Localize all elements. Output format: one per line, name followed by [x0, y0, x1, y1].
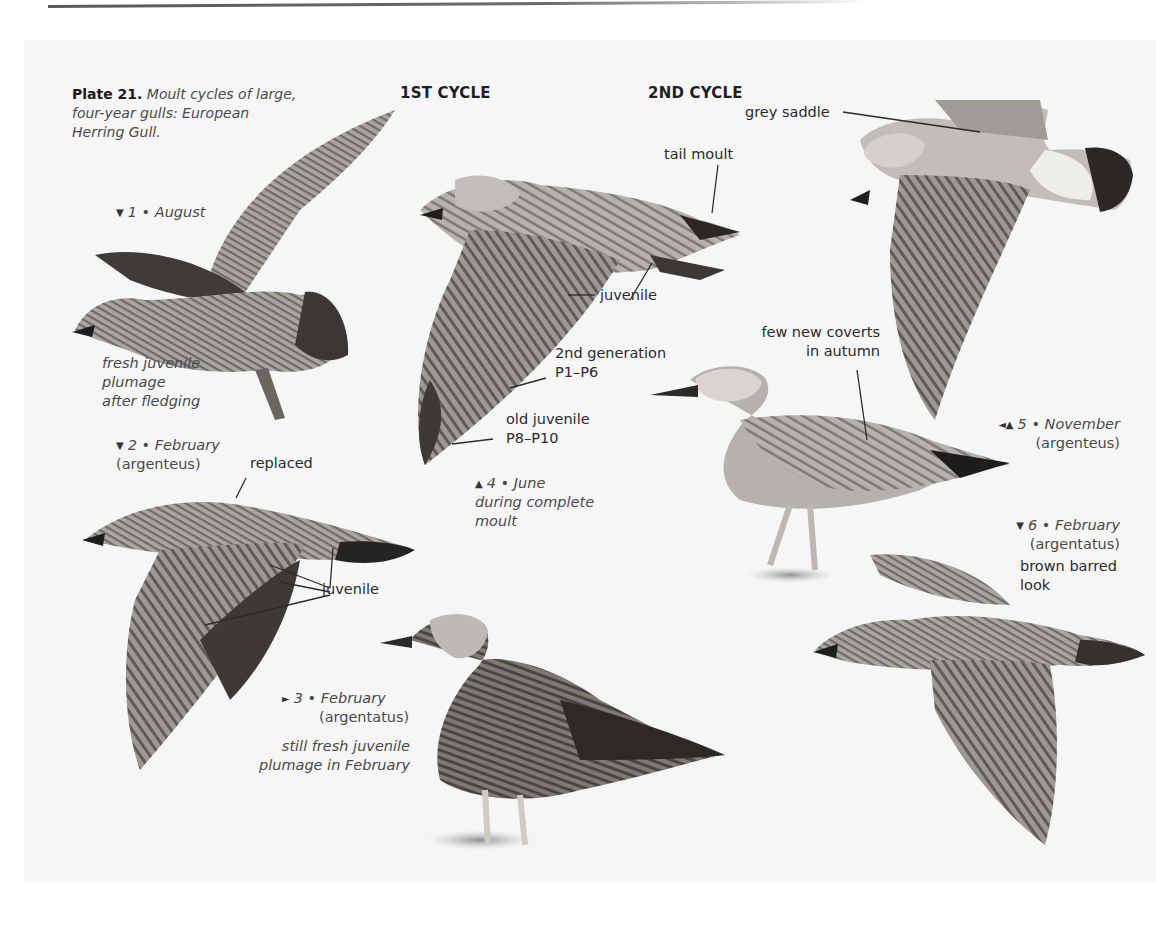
figure-2-form: (argenteus) — [116, 455, 201, 474]
gull-illustration-5 — [650, 366, 1010, 583]
callout-replaced: replaced — [250, 454, 313, 473]
figure-6-form: (argentatus) — [960, 535, 1120, 554]
triangle-right-icon: ► — [282, 693, 290, 704]
gull-illustration-2 — [82, 502, 415, 770]
callout-in-autumn: in autumn — [720, 342, 880, 361]
callout-tail-moult: tail moult — [664, 145, 733, 164]
figure-3-label: ►3 • February — [282, 689, 386, 708]
plate-caption-line-2: four-year gulls: European — [72, 104, 249, 123]
callout-few-new-coverts: few new coverts — [720, 323, 880, 342]
gull-illustration-2nd-cycle-top — [850, 100, 1133, 420]
triangle-down-icon: ▼ — [1016, 520, 1024, 531]
plate-caption: Plate 21. Moult cycles of large, — [72, 85, 296, 104]
column-heading-1st-cycle: 1ST CYCLE — [400, 84, 491, 103]
plate-caption-line-3: Herring Gull. — [72, 123, 161, 142]
figure-6-label: ▼6 • February — [960, 516, 1120, 535]
figure-1-note-line-3: after fledging — [102, 392, 200, 411]
gull-illustration-3 — [380, 614, 725, 850]
figure-4-label: ▲4 • June — [475, 474, 545, 493]
callout-grey-saddle: grey saddle — [745, 103, 830, 122]
callout-juvenile-fig2: juvenile — [322, 580, 379, 599]
gull-illustration-6 — [813, 554, 1145, 845]
figure-4-note-line-2: moult — [475, 512, 517, 531]
figure-5-form: (argenteus) — [950, 434, 1120, 453]
figure-4-note-line-1: during complete — [475, 493, 594, 512]
callout-2nd-generation: 2nd generation — [555, 344, 666, 363]
figure-1-label: ▼1 • August — [116, 203, 205, 222]
figure-6-note-line-2: look — [1020, 576, 1050, 595]
plate-caption-line-1: Moult cycles of large, — [147, 86, 296, 102]
figure-5-label: ◄▲5 • November — [950, 415, 1120, 434]
column-heading-2nd-cycle: 2ND CYCLE — [648, 84, 743, 103]
figure-2-label: ▼2 • February — [116, 436, 220, 455]
triangle-left-up-icon: ◄▲ — [998, 419, 1013, 430]
callout-juvenile-fig4: juvenile — [600, 286, 657, 305]
figure-1-note-line-1: fresh juvenile — [102, 354, 200, 373]
figure-3-note-line-1: still fresh juvenile — [240, 737, 410, 756]
callout-p1-p6: P1–P6 — [555, 363, 598, 382]
triangle-up-icon: ▲ — [475, 478, 483, 489]
triangle-down-icon: ▼ — [116, 207, 124, 218]
callout-p8-p10: P8–P10 — [506, 429, 558, 448]
figure-1-note-line-2: plumage — [102, 373, 166, 392]
triangle-down-icon: ▼ — [116, 440, 124, 451]
figure-3-note-line-2: plumage in February — [240, 756, 410, 775]
plate-label: Plate 21. — [72, 86, 142, 102]
figure-6-note-line-1: brown barred — [1020, 557, 1117, 576]
figure-3-form: (argentatus) — [319, 708, 409, 727]
callout-old-juvenile: old juvenile — [506, 410, 590, 429]
